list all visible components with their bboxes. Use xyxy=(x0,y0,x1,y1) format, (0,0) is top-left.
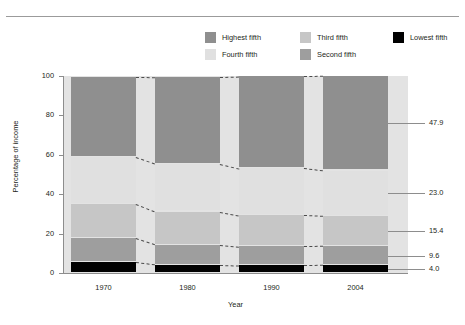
legend-column: Third fifthSecond fifth xyxy=(300,29,356,63)
chart-figure: Highest fifthFourth fifthThird fifthSeco… xyxy=(0,0,465,325)
y-axis-line xyxy=(63,76,64,274)
bar-segment-1990-highest[interactable] xyxy=(239,76,304,167)
y-tick-mark xyxy=(59,115,63,116)
legend-label-second: Second fifth xyxy=(317,49,356,60)
legend-column: Highest fifthFourth fifth xyxy=(205,29,261,63)
legend-label-highest: Highest fifth xyxy=(222,32,261,43)
bar-2004[interactable] xyxy=(323,76,388,273)
end-label-leader-fourth xyxy=(388,193,425,194)
bar-segment-1990-lowest[interactable] xyxy=(239,265,304,272)
legend-item-highest[interactable]: Highest fifth xyxy=(205,29,261,46)
legend-label-lowest: Lowest fifth xyxy=(410,32,447,43)
end-label-leader-third xyxy=(388,231,425,232)
bar-segment-1980-second[interactable] xyxy=(155,245,220,264)
bar-segment-1980-lowest[interactable] xyxy=(155,265,220,272)
bar-1990[interactable] xyxy=(239,76,304,273)
legend-item-lowest[interactable]: Lowest fifth xyxy=(393,29,447,46)
x-tick-label-1980: 1980 xyxy=(158,283,218,292)
end-label-value-third: 15.4 xyxy=(429,226,443,235)
connector-highest xyxy=(220,76,239,77)
connector-highest xyxy=(136,77,155,78)
legend-swatch-second-icon xyxy=(300,49,311,60)
legend-swatch-highest-icon xyxy=(205,32,216,43)
y-tick-label: 0 xyxy=(8,268,54,277)
bar-segment-2004-second[interactable] xyxy=(323,246,388,264)
bar-segment-2004-fourth[interactable] xyxy=(323,171,388,215)
legend-column: Lowest fifth xyxy=(393,29,447,46)
x-tick-label-1970: 1970 xyxy=(74,283,134,292)
legend-label-third: Third fifth xyxy=(317,32,348,43)
end-label-leader-lowest xyxy=(388,269,425,270)
bar-1970[interactable] xyxy=(71,76,136,273)
bar-1980[interactable] xyxy=(155,76,220,273)
bar-segment-1990-third[interactable] xyxy=(239,215,304,245)
legend-swatch-fourth-icon xyxy=(205,49,216,60)
end-label-value-lowest: 4.0 xyxy=(429,264,439,273)
bar-segment-2004-third[interactable] xyxy=(323,216,388,245)
legend-item-second[interactable]: Second fifth xyxy=(300,46,356,63)
bar-segment-1990-second[interactable] xyxy=(239,246,304,264)
end-label-value-highest: 47.9 xyxy=(429,118,443,127)
legend-item-third[interactable]: Third fifth xyxy=(300,29,356,46)
x-tick-label-1990: 1990 xyxy=(242,283,302,292)
bar-segment-2004-lowest[interactable] xyxy=(323,265,388,272)
bar-segment-1970-second[interactable] xyxy=(71,238,136,261)
y-tick-mark xyxy=(59,273,63,274)
end-label-value-fourth: 23.0 xyxy=(429,188,443,197)
connector-lowest xyxy=(220,265,239,267)
legend-item-fourth[interactable]: Fourth fifth xyxy=(205,46,261,63)
y-axis-title-text: Percentage of income xyxy=(12,121,21,193)
header-divider xyxy=(6,16,459,17)
y-tick-label: 20 xyxy=(8,229,54,238)
legend-swatch-lowest-icon xyxy=(393,32,404,43)
bar-segment-1980-fourth[interactable] xyxy=(155,164,220,211)
chart-legend: Highest fifthFourth fifthThird fifthSeco… xyxy=(205,29,460,63)
legend-label-fourth: Fourth fifth xyxy=(222,49,257,60)
end-label-leader-second xyxy=(388,256,425,257)
y-tick-mark xyxy=(59,194,63,195)
bar-segment-1970-third[interactable] xyxy=(71,204,136,237)
end-label-leader-highest xyxy=(388,123,425,124)
bar-segment-1980-highest[interactable] xyxy=(155,77,220,163)
y-tick-mark xyxy=(59,76,63,77)
bar-segment-1970-fourth[interactable] xyxy=(71,157,136,203)
x-tick-label-2004: 2004 xyxy=(326,283,386,292)
bar-segment-1970-highest[interactable] xyxy=(71,77,136,156)
bar-segment-2004-highest[interactable] xyxy=(323,76,388,169)
bar-segment-1970-lowest[interactable] xyxy=(71,262,136,272)
x-axis-line xyxy=(63,273,408,274)
y-tick-mark xyxy=(59,234,63,235)
bar-segment-1990-fourth[interactable] xyxy=(239,168,304,214)
legend-swatch-third-icon xyxy=(300,32,311,43)
end-label-value-second: 9.6 xyxy=(429,251,439,260)
y-tick-label: 100 xyxy=(8,71,54,80)
x-axis-title: Year xyxy=(63,300,408,309)
y-tick-label: 80 xyxy=(8,110,54,119)
bar-segment-1980-third[interactable] xyxy=(155,212,220,244)
